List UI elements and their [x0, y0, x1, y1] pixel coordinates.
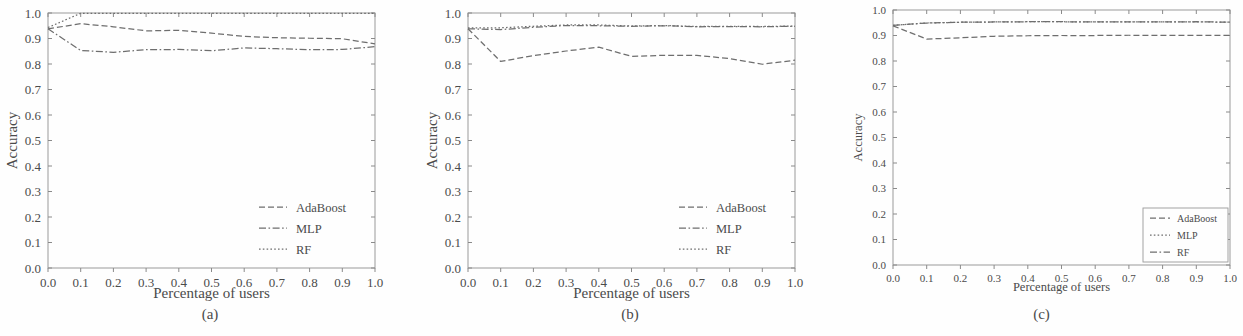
subcaption-c: (c) [840, 306, 1243, 323]
y-tick-label: 0.2 [872, 208, 886, 220]
y-tick-label: 0.3 [25, 184, 41, 199]
y-axis-title: Accuracy [851, 113, 865, 162]
y-tick-label: 0.9 [25, 31, 41, 46]
x-tick-label: 0.9 [1189, 272, 1203, 284]
y-tick-label: 0.0 [872, 259, 886, 271]
legend-label-rf: RF [1177, 247, 1190, 258]
y-tick-label: 0.5 [872, 131, 886, 143]
y-tick-label: 1.0 [445, 6, 461, 21]
x-tick-label: 0.9 [334, 275, 350, 290]
x-tick-label: 0.3 [138, 275, 154, 290]
y-tick-label: 0.4 [445, 159, 462, 174]
y-axis-title: Accuracy [4, 111, 20, 169]
y-tick-label: 0.5 [25, 133, 41, 148]
legend-label-mlp: MLP [1177, 230, 1198, 241]
legend-label-rf: RF [296, 243, 311, 257]
plot-frame [468, 13, 795, 268]
x-tick-label: 0.1 [920, 272, 934, 284]
x-tick-label: 0.7 [689, 275, 706, 290]
y-tick-label: 0.6 [25, 108, 42, 123]
plot-a: 0.00.10.20.30.40.50.60.70.80.91.00.00.10… [0, 0, 420, 305]
plot-b: 0.00.10.20.30.40.50.60.70.80.91.00.00.10… [420, 0, 840, 305]
x-tick-label: 0.1 [73, 275, 89, 290]
x-tick-label: 0.7 [1122, 272, 1136, 284]
y-tick-label: 0.0 [25, 261, 41, 276]
y-tick-label: 0.8 [25, 57, 41, 72]
panel-c: 0.00.10.20.30.40.50.60.70.80.91.00.00.10… [840, 0, 1243, 336]
subcaption-a: (a) [0, 306, 420, 323]
legend-label-adaboost: AdaBoost [716, 201, 767, 215]
y-tick-label: 0.3 [445, 184, 461, 199]
legend: AdaBoostMLPRF [1143, 208, 1228, 262]
y-tick-label: 0.1 [445, 235, 461, 250]
x-axis-title: Percentage of users [1013, 280, 1110, 294]
y-tick-label: 0.7 [445, 82, 462, 97]
plot-c: 0.00.10.20.30.40.50.60.70.80.91.00.00.10… [840, 0, 1243, 305]
y-tick-label: 0.8 [872, 55, 886, 67]
subcaption-b: (b) [420, 306, 840, 323]
x-tick-label: 0.2 [525, 275, 541, 290]
y-tick-label: 0.1 [25, 235, 41, 250]
x-tick-label: 0.2 [954, 272, 968, 284]
x-tick-label: 0.3 [558, 275, 574, 290]
y-tick-label: 0.8 [445, 57, 461, 72]
legend-label-adaboost: AdaBoost [296, 201, 347, 215]
x-tick-label: 1.0 [787, 275, 803, 290]
y-tick-label: 0.7 [25, 82, 42, 97]
x-tick-label: 0.8 [301, 275, 317, 290]
panel-b: 0.00.10.20.30.40.50.60.70.80.91.00.00.10… [420, 0, 840, 336]
y-tick-label: 0.2 [445, 210, 461, 225]
legend-label-mlp: MLP [716, 222, 742, 236]
y-tick-label: 1.0 [25, 6, 41, 21]
figure-three-panel-accuracy: 0.00.10.20.30.40.50.60.70.80.91.00.00.10… [0, 0, 1243, 336]
y-tick-label: 0.4 [25, 159, 42, 174]
x-tick-label: 1.0 [367, 275, 383, 290]
x-tick-label: 0.0 [886, 272, 900, 284]
y-axis-title: Accuracy [424, 111, 440, 169]
y-tick-label: 0.4 [872, 157, 886, 169]
legend-label-adaboost: AdaBoost [1177, 213, 1217, 224]
x-tick-label: 0.2 [105, 275, 121, 290]
x-tick-label: 0.3 [987, 272, 1001, 284]
y-tick-label: 0.5 [445, 133, 461, 148]
y-tick-label: 0.3 [872, 182, 886, 194]
y-tick-label: 0.6 [872, 106, 886, 118]
panel-a: 0.00.10.20.30.40.50.60.70.80.91.00.00.10… [0, 0, 420, 336]
y-tick-label: 0.2 [25, 210, 41, 225]
legend-label-mlp: MLP [296, 222, 322, 236]
x-tick-label: 0.9 [754, 275, 770, 290]
y-tick-label: 0.6 [445, 108, 462, 123]
x-tick-label: 1.0 [1223, 272, 1237, 284]
x-tick-label: 0.0 [40, 275, 56, 290]
x-tick-label: 0.8 [1156, 272, 1170, 284]
legend-label-rf: RF [716, 243, 731, 257]
y-tick-label: 0.9 [445, 31, 461, 46]
y-tick-label: 0.9 [872, 29, 886, 41]
y-tick-label: 0.1 [872, 233, 886, 245]
y-tick-label: 0.0 [445, 261, 461, 276]
x-tick-label: 0.0 [460, 275, 476, 290]
x-tick-label: 0.1 [493, 275, 509, 290]
y-tick-label: 1.0 [872, 4, 886, 16]
x-axis-title: Percentage of users [153, 285, 270, 301]
x-tick-label: 0.8 [721, 275, 737, 290]
x-tick-label: 0.7 [269, 275, 286, 290]
y-tick-label: 0.7 [872, 80, 886, 92]
x-axis-title: Percentage of users [573, 285, 690, 301]
